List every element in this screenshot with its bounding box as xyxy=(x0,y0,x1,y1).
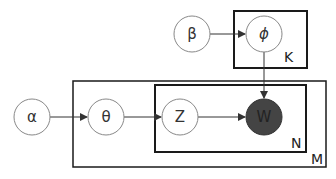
node-w-observed: W xyxy=(246,99,282,135)
node-alpha-label: α xyxy=(27,108,37,126)
node-z-label: Z xyxy=(175,108,185,126)
node-w-label: W xyxy=(257,108,272,126)
node-phi-label: ϕ xyxy=(259,25,269,43)
node-theta-label: θ xyxy=(101,108,110,126)
node-alpha: α xyxy=(14,99,50,135)
plate-k-label: K xyxy=(284,49,294,65)
node-beta-label: β xyxy=(187,25,197,43)
node-theta: θ xyxy=(88,99,124,135)
node-phi: ϕ xyxy=(246,16,282,52)
plate-diagram: K M N α θ Z W β ϕ xyxy=(0,0,336,179)
plate-n-label: N xyxy=(291,135,301,151)
plate-m-label: M xyxy=(311,151,323,167)
node-z: Z xyxy=(162,99,198,135)
node-beta: β xyxy=(174,16,210,52)
